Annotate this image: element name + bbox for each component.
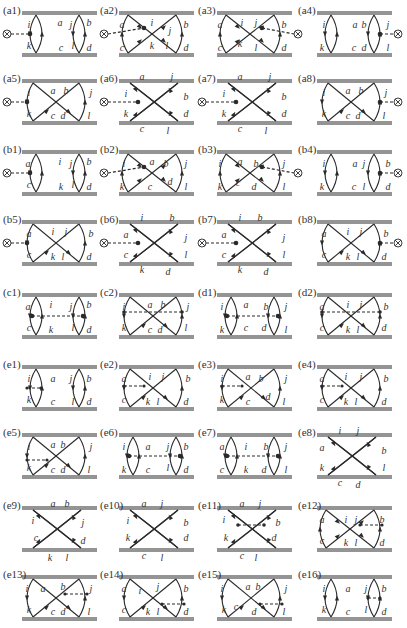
diagram-panel: (b4)iakcjbld — [298, 145, 398, 213]
index-label: j — [383, 87, 388, 98]
index-label: c — [220, 464, 225, 475]
index-label: c — [124, 249, 129, 260]
diagram-svg: aijbckld — [100, 570, 200, 628]
diagram-svg: aickjbld — [3, 288, 103, 358]
index-label: d — [262, 322, 268, 333]
index-label: d — [184, 532, 190, 543]
index-label: j — [167, 25, 172, 36]
index-label: c — [142, 550, 147, 561]
index-label: l — [355, 396, 358, 407]
index-label: d — [382, 606, 388, 617]
index-label: a — [51, 373, 56, 384]
index-label: b — [282, 19, 287, 30]
index-label: j — [281, 158, 286, 169]
index-label: b — [184, 583, 189, 594]
index-label: b — [386, 158, 391, 169]
index-label: i — [151, 17, 154, 28]
index-label: k — [146, 606, 151, 617]
index-label: l — [185, 322, 188, 333]
diagram-panel: (a1)iakcjbld — [3, 6, 103, 74]
index-label: l — [283, 181, 286, 192]
index-label: k — [49, 324, 54, 335]
index-label: l — [283, 249, 286, 260]
index-label: b — [254, 158, 259, 169]
diagram-svg: iabjkcdl — [3, 428, 103, 498]
index-label: a — [122, 583, 127, 594]
index-label: j — [80, 517, 85, 528]
index-label: b — [384, 373, 389, 384]
diagram-svg: iabjkcdl — [198, 360, 298, 430]
index-label: k — [122, 322, 127, 333]
index-label: c — [246, 396, 251, 407]
index-label: k — [220, 394, 225, 405]
index-label: b — [64, 85, 69, 96]
index-label: i — [139, 585, 142, 596]
index-label: c — [322, 249, 327, 260]
diagram-panel: (e7)aickbjdl — [198, 428, 298, 496]
index-label: k — [346, 324, 351, 335]
index-label: k — [27, 604, 32, 615]
index-label: k — [27, 40, 32, 51]
index-label: a — [124, 229, 129, 240]
index-label: c — [51, 110, 56, 121]
diagram-panel: (e14)aijbckld — [100, 570, 200, 628]
index-label: j — [155, 581, 160, 592]
diagram-svg: aijbckld — [298, 215, 398, 285]
index-label: d — [282, 108, 288, 119]
index-label: i — [123, 301, 126, 312]
index-label: l — [383, 462, 386, 473]
index-label: j — [68, 19, 73, 30]
index-label: c — [346, 606, 351, 617]
index-label: k — [344, 396, 349, 407]
index-label: k — [150, 40, 155, 51]
index-label: d — [382, 251, 388, 262]
index-label: i — [26, 583, 29, 594]
index-label: a — [146, 441, 151, 452]
index-label: i — [241, 17, 244, 28]
diagram-panel: (a8)iabjkcdl — [298, 74, 398, 142]
index-label: l — [161, 552, 164, 563]
index-label: b — [170, 212, 175, 223]
index-label: c — [218, 42, 223, 53]
index-label: l — [72, 396, 75, 407]
index-label: l — [355, 537, 358, 548]
index-label: i — [347, 226, 350, 237]
diagram-svg: ajibkdcl — [100, 74, 200, 144]
index-label: c — [148, 181, 153, 192]
index-label: a — [41, 583, 46, 594]
diagram-svg: aijbckld — [298, 501, 398, 571]
index-label: a — [320, 442, 325, 453]
diagram-panel: (e15)iabjkcdl — [198, 570, 298, 628]
index-label: j — [88, 87, 93, 98]
index-label: l — [365, 604, 368, 615]
index-label: i — [141, 212, 144, 223]
diagram-svg: aijbckld — [298, 288, 398, 358]
diagram-panel: (e11)ajibkdcl — [198, 501, 298, 569]
index-label: d — [158, 324, 164, 335]
index-label: b — [87, 17, 92, 28]
index-label: d — [262, 464, 268, 475]
diagram-svg: iakcjbld — [298, 570, 398, 628]
index-label: c — [320, 535, 325, 546]
index-label: l — [88, 110, 91, 121]
index-label: l — [285, 324, 288, 335]
index-label: a — [58, 17, 63, 28]
index-label: a — [238, 156, 243, 167]
diagram-panel: (a7)ajibkdcl — [198, 74, 298, 142]
index-label: b — [384, 228, 389, 239]
index-label: l — [283, 606, 286, 617]
diagram-svg: aijbckld — [198, 6, 298, 76]
index-label: a — [246, 371, 251, 382]
index-label: l — [166, 40, 169, 51]
index-label: a — [246, 581, 251, 592]
index-label: c — [27, 249, 32, 260]
index-label: c — [320, 322, 325, 333]
diagram-svg: iakcjbld — [100, 428, 200, 498]
index-label: b — [384, 301, 389, 312]
index-label: d — [282, 42, 288, 53]
diagram-svg: ijabklcd — [298, 428, 398, 498]
index-label: b — [256, 581, 261, 592]
diagram-svg: aijbckld — [298, 360, 398, 430]
diagram-svg: iabjkcdl — [3, 74, 103, 144]
index-label: i — [323, 19, 326, 30]
